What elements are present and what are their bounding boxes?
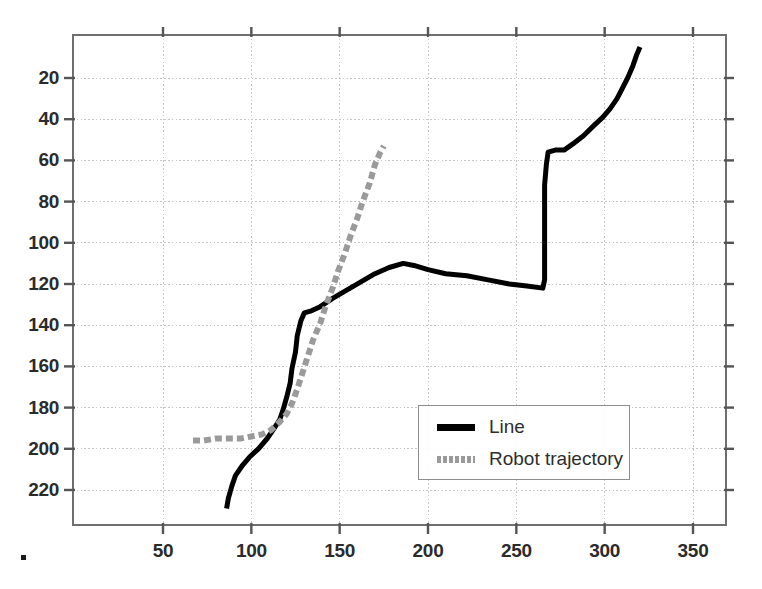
y-tick-label: 80	[0, 191, 59, 213]
legend-swatch-robot-trajectory	[437, 456, 475, 463]
corner-dot-artifact	[21, 555, 26, 560]
x-tick-label: 200	[413, 540, 444, 562]
y-tick-label: 180	[0, 397, 59, 419]
tick-marks	[64, 27, 734, 534]
legend-entry-robot-trajectory: Robot trajectory	[437, 448, 623, 470]
x-tick-label: 300	[589, 540, 620, 562]
x-tick-label: 250	[501, 540, 532, 562]
y-tick-label: 140	[0, 314, 59, 336]
y-tick-label: 60	[0, 149, 59, 171]
legend-swatch-line	[437, 424, 475, 431]
x-tick-label: 350	[678, 540, 709, 562]
y-tick-label: 220	[0, 479, 59, 501]
y-tick-label: 40	[0, 108, 59, 130]
plot-svg	[0, 0, 762, 589]
y-tick-label: 160	[0, 355, 59, 377]
y-tick-label: 120	[0, 273, 59, 295]
legend: Line Robot trajectory	[418, 405, 630, 480]
y-tick-label: 200	[0, 438, 59, 460]
chart-figure: 20406080100120140160180200220 5010015020…	[0, 0, 762, 589]
y-tick-label: 100	[0, 232, 59, 254]
x-tick-label: 50	[153, 540, 174, 562]
legend-label-robot-trajectory: Robot trajectory	[489, 448, 623, 470]
legend-entry-line: Line	[437, 416, 525, 438]
legend-label-line: Line	[489, 416, 525, 438]
x-tick-label: 150	[324, 540, 355, 562]
x-tick-label: 100	[236, 540, 267, 562]
y-tick-label: 20	[0, 67, 59, 89]
